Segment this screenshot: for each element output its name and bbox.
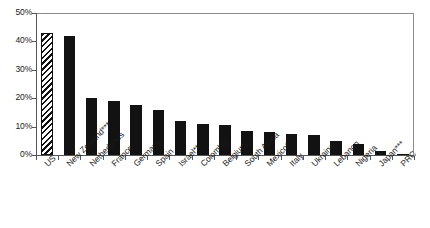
- y-axis-tick-label: 50%: [16, 8, 32, 17]
- x-axis-tick-mark: [281, 156, 282, 160]
- x-axis-tick-mark: [169, 156, 170, 160]
- y-axis-tick-label: 30%: [16, 65, 32, 74]
- x-axis-label-group: USNew Zealand***NetherlandsFranceGermany…: [0, 155, 430, 228]
- y-axis-tick-label: 20%: [16, 93, 32, 102]
- x-axis-tick-mark: [258, 156, 259, 160]
- y-axis-tick-mark: [32, 13, 37, 14]
- x-axis-tick-mark: [103, 156, 104, 160]
- x-axis-tick-mark: [236, 156, 237, 160]
- bar: [41, 33, 53, 155]
- bar: [64, 36, 76, 155]
- x-axis-tick-mark: [147, 156, 148, 160]
- x-axis-tick-mark: [214, 156, 215, 160]
- x-axis-tick-mark: [58, 156, 59, 160]
- y-axis-label-group: 50%40%30%20%10%0%: [0, 0, 34, 165]
- x-axis-tick-mark: [125, 156, 126, 160]
- x-axis-tick-mark: [347, 156, 348, 160]
- y-axis-tick-mark: [32, 41, 37, 42]
- x-axis-tick-mark: [370, 156, 371, 160]
- y-axis-tick-mark: [32, 127, 37, 128]
- bar: [175, 121, 187, 155]
- x-axis-tick-mark: [80, 156, 81, 160]
- y-axis-tick-label: 40%: [16, 36, 32, 45]
- bar-chart: 50%40%30%20%10%0% USNew Zealand***Nether…: [0, 0, 430, 228]
- x-axis-tick-label: US: [43, 154, 58, 169]
- y-axis-tick-mark: [32, 98, 37, 99]
- x-axis-tick-mark: [303, 156, 304, 160]
- y-axis-tick-label: 10%: [16, 122, 32, 131]
- x-axis-tick-mark: [192, 156, 193, 160]
- x-axis-tick-mark: [325, 156, 326, 160]
- y-axis-tick-mark: [32, 70, 37, 71]
- x-axis-tick-mark: [392, 156, 393, 160]
- x-axis-tick-mark: [36, 156, 37, 160]
- x-axis-tick-mark: [414, 156, 415, 160]
